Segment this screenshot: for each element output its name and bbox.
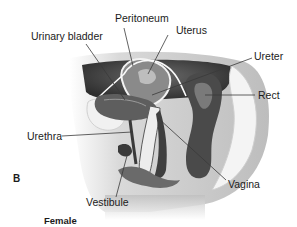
label-vestibule: Vestibule	[86, 196, 129, 208]
label-peritoneum: Peritoneum	[115, 12, 169, 24]
label-urinary-bladder: Urinary bladder	[31, 30, 103, 42]
anatomy-figure: Peritoneum Uterus Urinary bladder Ureter…	[0, 0, 297, 227]
panel-letter: B	[13, 173, 20, 184]
label-urethra: Urethra	[27, 130, 62, 142]
label-ureter: Ureter	[254, 50, 283, 62]
label-vagina: Vagina	[228, 178, 260, 190]
label-rectum: Rect	[258, 89, 280, 101]
figure-caption: Female	[44, 215, 77, 226]
label-uterus: Uterus	[176, 24, 207, 36]
